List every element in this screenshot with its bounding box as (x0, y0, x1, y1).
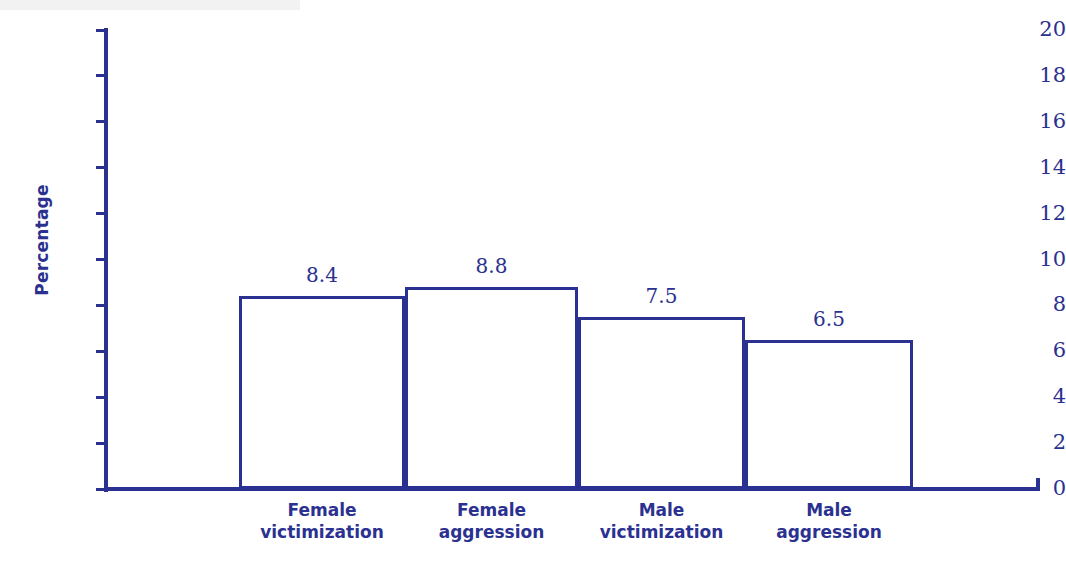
y-axis-tick-label: 18 (1006, 65, 1066, 86)
y-axis-tick-label: 16 (1006, 111, 1066, 132)
bar-value-label: 8.4 (239, 265, 405, 285)
y-axis-tick (96, 396, 106, 399)
y-axis-tick-label: 14 (1006, 157, 1066, 178)
y-axis-tick-label: 12 (1006, 203, 1066, 224)
y-axis-tick-label: 4 (1006, 386, 1066, 407)
x-axis-category-label-line: victimization (227, 522, 417, 544)
bar-value-label: 6.5 (745, 309, 913, 329)
y-axis-tick-label: 2 (1006, 432, 1066, 453)
x-axis-category-label: Femaleaggression (393, 500, 590, 544)
bar-value-label: 7.5 (578, 286, 745, 306)
y-axis-tick (96, 258, 106, 261)
x-axis-category-label-line: Male (566, 500, 757, 522)
y-axis-tick (96, 74, 106, 77)
x-axis-category-label-line: aggression (733, 522, 925, 544)
y-axis-tick (96, 304, 106, 307)
y-axis-tick (96, 166, 106, 169)
bar[interactable] (578, 317, 745, 489)
x-axis-category-label-line: aggression (393, 522, 590, 544)
y-axis-tick-label: 20 (1006, 19, 1066, 40)
bar[interactable] (745, 340, 913, 489)
chart-canvas: Percentage 20181614121086420 8.48.87.56.… (0, 0, 1066, 571)
x-axis-category-label: Malevictimization (566, 500, 757, 544)
x-axis-category-label-line: victimization (566, 522, 757, 544)
x-axis-category-label-line: Female (393, 500, 590, 522)
y-axis-title: Percentage (32, 170, 52, 310)
x-axis-category-label: Femalevictimization (227, 500, 417, 544)
page-artifact (0, 0, 300, 10)
y-axis-tick (96, 212, 106, 215)
y-axis-tick (96, 120, 106, 123)
x-axis-category-label-line: Male (733, 500, 925, 522)
y-axis-tick-label: 6 (1006, 340, 1066, 361)
y-axis-tick (96, 350, 106, 353)
x-axis-category-label-line: Female (227, 500, 417, 522)
y-axis-tick (96, 29, 106, 32)
y-axis-tick-label: 8 (1006, 294, 1066, 315)
bar[interactable] (239, 296, 405, 489)
bar-value-label: 8.8 (405, 256, 578, 276)
bar[interactable] (405, 287, 578, 489)
y-axis-tick-label: 10 (1006, 249, 1066, 270)
y-axis-tick (96, 442, 106, 445)
x-axis-category-label: Maleaggression (733, 500, 925, 544)
x-axis-end-tick (1036, 478, 1040, 491)
